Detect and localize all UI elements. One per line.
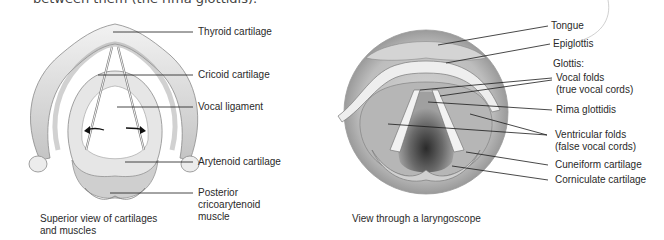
label-tongue: Tongue bbox=[551, 20, 584, 32]
label-corniculate-cartilage: Corniculate cartilage bbox=[555, 174, 646, 186]
superior-view-illustration bbox=[29, 24, 199, 199]
caption-line: and muscles bbox=[40, 225, 157, 237]
label-line: Ventricular folds bbox=[555, 129, 636, 141]
label-line: (true vocal cords) bbox=[556, 84, 633, 96]
caption-line: Superior view of cartilages bbox=[40, 213, 157, 225]
label-epiglottis: Epiglottis bbox=[553, 38, 594, 50]
label-glottis: Glottis: bbox=[553, 58, 584, 70]
caption-superior-view: Superior view of cartilages and muscles bbox=[40, 213, 157, 237]
laryngoscope-view-illustration bbox=[338, 30, 508, 194]
label-vocal-ligament: Vocal ligament bbox=[198, 101, 263, 113]
label-ventricular-folds: Ventricular folds (false vocal cords) bbox=[555, 129, 636, 153]
label-line: (false vocal cords) bbox=[555, 141, 636, 153]
caption-laryngoscope-view: View through a laryngoscope bbox=[352, 213, 481, 225]
label-posterior-cricoarytenoid-muscle: Posterior cricoarytenoid muscle bbox=[198, 187, 260, 223]
label-cuneiform-cartilage: Cuneiform cartilage bbox=[555, 159, 642, 171]
label-vocal-folds: Vocal folds (true vocal cords) bbox=[556, 72, 633, 96]
label-line: cricoarytenoid bbox=[198, 199, 260, 211]
label-cricoid-cartilage: Cricoid cartilage bbox=[198, 69, 270, 81]
label-line: Vocal folds bbox=[556, 72, 633, 84]
label-thyroid-cartilage: Thyroid cartilage bbox=[198, 26, 272, 38]
label-rima-glottidis: Rima glottidis bbox=[556, 104, 616, 116]
label-line: muscle bbox=[198, 211, 260, 223]
label-line: Posterior bbox=[198, 187, 260, 199]
diagram-canvas bbox=[0, 0, 664, 240]
label-arytenoid-cartilage: Arytenoid cartilage bbox=[198, 156, 281, 168]
